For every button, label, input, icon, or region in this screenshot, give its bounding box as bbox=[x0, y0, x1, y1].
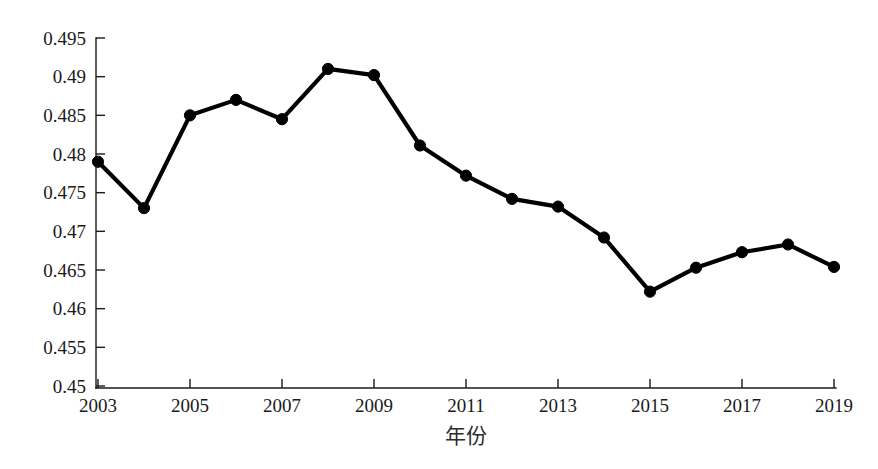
y-tick-label: 0.495 bbox=[43, 28, 86, 49]
data-series-group bbox=[92, 63, 839, 297]
data-point-marker bbox=[828, 261, 839, 272]
x-tick-label: 2007 bbox=[263, 395, 301, 416]
data-point-marker bbox=[644, 286, 655, 297]
data-point-marker bbox=[414, 140, 425, 151]
x-axis: 200320052007200920112013201520172019 bbox=[79, 379, 853, 416]
y-axis: 0.450.4550.460.4650.470.4750.480.4850.49… bbox=[43, 28, 105, 397]
x-axis-title: 年份 bbox=[445, 424, 487, 448]
data-point-marker bbox=[138, 203, 149, 214]
data-point-marker bbox=[276, 114, 287, 125]
y-tick-label: 0.48 bbox=[53, 144, 86, 165]
x-tick-label: 2005 bbox=[171, 395, 209, 416]
y-tick-label: 0.47 bbox=[53, 221, 86, 242]
x-tick-label: 2015 bbox=[631, 395, 669, 416]
chart-canvas: 0.450.4550.460.4650.470.4750.480.4850.49… bbox=[0, 0, 878, 469]
y-tick-label: 0.45 bbox=[53, 376, 86, 397]
data-point-marker bbox=[322, 63, 333, 74]
y-tick-label: 0.46 bbox=[53, 298, 86, 319]
y-tick-label: 0.475 bbox=[43, 182, 86, 203]
data-point-marker bbox=[92, 156, 103, 167]
x-tick-label: 2003 bbox=[79, 395, 117, 416]
data-point-marker bbox=[552, 201, 563, 212]
data-point-marker bbox=[460, 170, 471, 181]
data-point-marker bbox=[368, 70, 379, 81]
x-tick-label: 2013 bbox=[539, 395, 577, 416]
data-point-marker bbox=[230, 94, 241, 105]
data-point-marker bbox=[506, 193, 517, 204]
data-point-marker bbox=[690, 262, 701, 273]
x-tick-label: 2009 bbox=[355, 395, 393, 416]
x-tick-label: 2019 bbox=[815, 395, 853, 416]
data-point-marker bbox=[736, 247, 747, 258]
x-tick-label: 2017 bbox=[723, 395, 761, 416]
x-tick-label: 2011 bbox=[447, 395, 484, 416]
y-tick-label: 0.465 bbox=[43, 260, 86, 281]
y-tick-label: 0.455 bbox=[43, 337, 86, 358]
y-tick-label: 0.49 bbox=[53, 66, 86, 87]
line-chart-figure: 0.450.4550.460.4650.470.4750.480.4850.49… bbox=[0, 0, 878, 469]
y-tick-label: 0.485 bbox=[43, 105, 86, 126]
data-point-marker bbox=[598, 232, 609, 243]
data-point-marker bbox=[782, 239, 793, 250]
data-point-marker bbox=[184, 110, 195, 121]
